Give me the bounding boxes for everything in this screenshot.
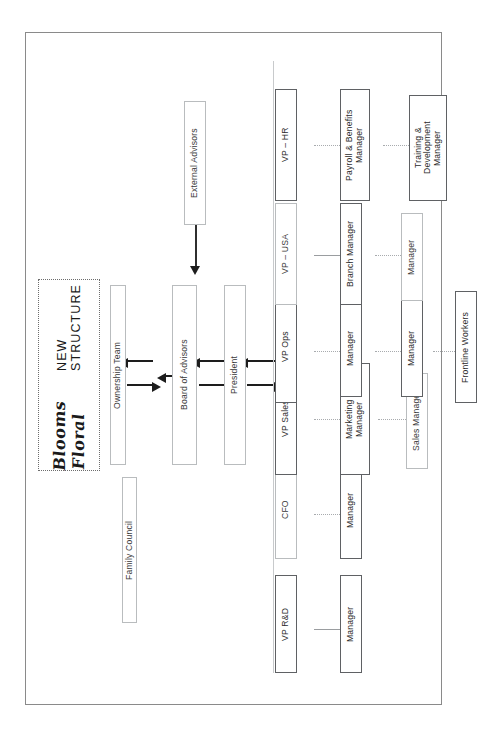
node-president[interactable]: President — [224, 285, 246, 465]
connector-external-advisors-stem — [195, 223, 197, 268]
connector-ownership-to-board-left — [127, 360, 153, 362]
node-vp-ops[interactable]: VP Ops — [275, 291, 297, 403]
node-vp-rd[interactable]: VP R&D — [275, 575, 297, 673]
node-vp-hr[interactable]: VP – HR — [275, 89, 297, 201]
node-family-council[interactable]: Family Council — [122, 477, 137, 623]
connector-board-to-president-right — [199, 384, 225, 386]
connector-vpops-to-manager1 — [314, 351, 340, 352]
node-vp-rd-manager[interactable]: Manager — [340, 575, 362, 673]
connector-manager1-to-manager2 — [375, 351, 401, 352]
document-subtitle: NEW STRUCTURE — [55, 280, 83, 371]
org-chart-canvas: Blooms Floral NEW STRUCTURE — [26, 33, 441, 704]
node-payroll-benefits-manager[interactable]: Payroll & Benefits Manager — [340, 89, 370, 201]
node-vp-ops-manager-1[interactable]: Manager — [340, 299, 362, 397]
connector-vphr-to-payroll — [314, 145, 340, 146]
title-inner: Blooms Floral NEW STRUCTURE — [39, 280, 99, 470]
title-block: Blooms Floral NEW STRUCTURE — [38, 279, 100, 471]
connector-marketing-to-sales — [378, 419, 406, 420]
node-cfo[interactable]: CFO — [275, 461, 297, 559]
connector-vprd-to-manager — [314, 629, 340, 630]
node-training-development-manager[interactable]: Training & Development Manager — [409, 95, 447, 201]
connector-manager2-to-frontline — [433, 351, 455, 352]
node-cfo-manager[interactable]: Manager — [340, 461, 362, 559]
node-branch-manager[interactable]: Branch Manager — [340, 203, 362, 305]
diagram-frame: Blooms Floral NEW STRUCTURE — [25, 32, 442, 705]
connector-cfo-to-manager — [314, 514, 340, 515]
brand-wordmark: Blooms Floral — [50, 372, 88, 471]
connector-branch-to-manager — [375, 255, 401, 256]
connector-president-to-vp-left — [247, 360, 275, 362]
node-board-of-advisors[interactable]: Board of Advisors — [172, 285, 197, 465]
connector-board-to-president-left — [199, 360, 225, 362]
connector-president-to-vp-right — [247, 384, 275, 386]
connector-external-advisors-arrowhead — [190, 266, 200, 275]
connector-payroll-to-training — [383, 145, 409, 146]
node-vp-usa[interactable]: VP – USA — [275, 203, 297, 305]
connector-vpusa-to-branch — [314, 255, 340, 256]
connector-vpsales-to-marketing — [314, 419, 340, 420]
node-external-advisors[interactable]: External Advisors — [184, 101, 206, 225]
node-vp-ops-manager-2[interactable]: Manager — [401, 299, 423, 397]
node-frontline-workers[interactable]: Frontline Workers — [455, 291, 477, 403]
node-vp-usa-manager[interactable]: Manager — [401, 213, 423, 301]
node-ownership-team[interactable]: Ownership Team — [110, 285, 126, 465]
connector-vp-spine — [273, 61, 274, 673]
connector-ownership-to-board-right — [127, 384, 153, 386]
